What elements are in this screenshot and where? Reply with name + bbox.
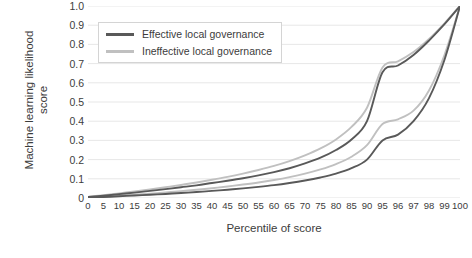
x-axis-tick-label: 70 (300, 200, 311, 212)
y-axis-title-line-2: score (36, 86, 50, 114)
x-axis-tick-label: 95 (377, 200, 388, 212)
x-axis-tick-label: 15 (129, 200, 140, 212)
x-axis-tick-label: 40 (207, 200, 218, 212)
x-axis-tick-label: 100 (452, 200, 468, 212)
x-axis-tick-label: 98 (424, 200, 435, 212)
legend-item: Effective local governance (106, 28, 272, 40)
x-axis-tick-label: 85 (346, 200, 357, 212)
x-axis-tick-label: 5 (101, 200, 106, 212)
legend-item: Ineffective local governance (106, 45, 272, 57)
legend-label: Effective local governance (142, 28, 264, 40)
x-axis-tick-label: 97 (408, 200, 419, 212)
y-axis-tick-label: 0 (58, 193, 84, 204)
x-axis-tick-label: 60 (269, 200, 280, 212)
y-axis-tick-label: 0.5 (58, 97, 84, 108)
x-axis-tick-label: 75 (315, 200, 326, 212)
y-axis-tick-label: 1.0 (58, 1, 84, 12)
x-axis-tick-label: 50 (238, 200, 249, 212)
x-axis-tick-label: 65 (284, 200, 295, 212)
x-axis-tick-label: 55 (253, 200, 264, 212)
x-axis-tick-label: 90 (362, 200, 373, 212)
x-axis-tick-labels: 0510152025303540455055606570758085909596… (88, 200, 460, 214)
x-axis-tick-label: 80 (331, 200, 342, 212)
y-axis-tick-label: 0.2 (58, 154, 84, 165)
x-axis-tick-label: 99 (439, 200, 450, 212)
x-axis-tick-label: 10 (114, 200, 125, 212)
x-axis-tick-label: 25 (160, 200, 171, 212)
x-axis-tick-label: 0 (85, 200, 90, 212)
y-axis-tick-label: 0.4 (58, 116, 84, 127)
y-axis-title-line-1: Machine learning likelihood (22, 31, 36, 170)
x-axis-tick-label: 35 (191, 200, 202, 212)
legend-label: Ineffective local governance (142, 45, 272, 57)
x-axis-tick-label: 30 (176, 200, 187, 212)
x-axis-tick-label: 96 (393, 200, 404, 212)
y-axis-tick-labels: 00.10.20.30.40.50.60.70.80.91.0 (58, 6, 84, 198)
legend-swatch-icon (106, 50, 134, 53)
x-axis-title: Percentile of score (88, 222, 460, 234)
chart-legend: Effective local governanceIneffective lo… (98, 22, 282, 63)
y-axis-tick-label: 0.9 (58, 20, 84, 31)
chart-container: Machine learning likelihood score 00.10.… (0, 0, 472, 258)
y-axis-tick-label: 0.1 (58, 173, 84, 184)
y-axis-tick-label: 0.3 (58, 135, 84, 146)
y-axis-tick-label: 0.7 (58, 58, 84, 69)
x-axis-tick-label: 20 (145, 200, 156, 212)
y-axis-tick-label: 0.6 (58, 77, 84, 88)
legend-swatch-icon (106, 33, 134, 36)
x-axis-tick-label: 45 (222, 200, 233, 212)
y-axis-title: Machine learning likelihood score (19, 0, 53, 200)
y-axis-tick-label: 0.8 (58, 39, 84, 50)
